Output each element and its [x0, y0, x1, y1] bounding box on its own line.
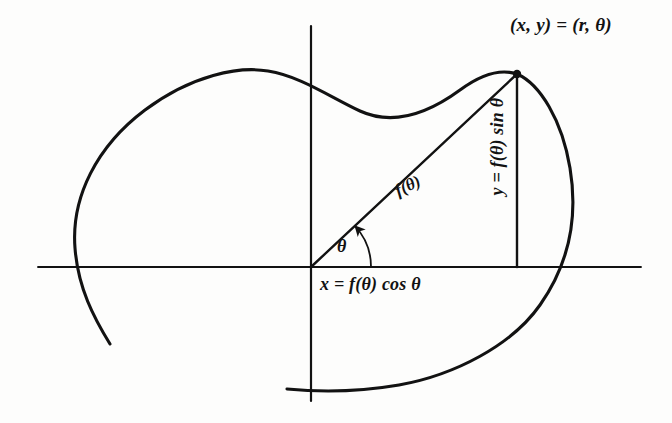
diagram-canvas: [0, 0, 672, 423]
y-component-label: y = f(θ) sin θ: [487, 98, 508, 196]
polar-coordinate-diagram: (x, y) = (r, θ) x = f(θ) cos θ y = f(θ) …: [0, 0, 672, 423]
point-marker: [513, 70, 521, 78]
point-coordinates-label: (x, y) = (r, θ): [510, 14, 612, 36]
angle-arc: [355, 226, 371, 267]
x-component-label: x = f(θ) cos θ: [320, 274, 421, 295]
angle-theta-label: θ: [337, 236, 347, 257]
